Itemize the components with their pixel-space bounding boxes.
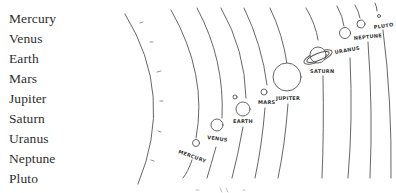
planet-mars bbox=[261, 89, 267, 95]
orbit-mars bbox=[244, 8, 267, 85]
orbit-pluto bbox=[375, 3, 377, 11]
label-pluto: PLUTO bbox=[373, 21, 394, 30]
orbit-jupiter bbox=[270, 8, 287, 64]
label-saturn: SATURN bbox=[310, 68, 334, 74]
orbit-arcs bbox=[171, 3, 391, 178]
orbit-uranus bbox=[337, 6, 344, 26]
label-mars: MARS bbox=[258, 99, 276, 105]
label-mercury: MERCURY bbox=[178, 148, 208, 164]
planet-jupiter bbox=[273, 63, 301, 91]
bottom-cut-marks bbox=[196, 188, 245, 192]
planet-earth bbox=[236, 102, 250, 116]
planet-venus bbox=[211, 119, 223, 131]
orbit-saturn bbox=[306, 8, 318, 40]
planet-uranus bbox=[340, 28, 351, 39]
orbit-venus bbox=[197, 8, 222, 118]
solar-system-diagram: MERCURY VENUS EARTH MARS JUPITER SATURN … bbox=[0, 0, 396, 193]
label-neptune: NEPTUNE bbox=[353, 32, 382, 41]
sun-edge-arc bbox=[125, 14, 154, 184]
orbit-mercury bbox=[171, 10, 199, 138]
orbit-neptune bbox=[355, 5, 360, 18]
planet-pluto bbox=[378, 15, 381, 18]
planet-neptune bbox=[357, 20, 365, 28]
label-jupiter: JUPITER bbox=[275, 95, 300, 101]
label-venus: VENUS bbox=[207, 134, 228, 143]
label-uranus: URANUS bbox=[334, 45, 360, 55]
orbit-earth bbox=[221, 8, 246, 98]
moon-icon bbox=[233, 95, 237, 99]
planet-mercury bbox=[193, 140, 200, 147]
label-earth: EARTH bbox=[233, 118, 253, 124]
planet-labels: MERCURY VENUS EARTH MARS JUPITER SATURN … bbox=[178, 21, 394, 164]
